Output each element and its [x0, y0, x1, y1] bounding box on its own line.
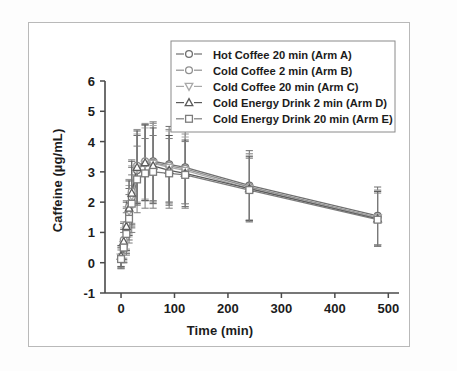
- y-tick-label: 2: [88, 195, 95, 210]
- data-point-marker: [128, 200, 135, 207]
- y-tick-label: 4: [88, 135, 96, 150]
- data-point-marker: [186, 51, 193, 58]
- y-tick-label: 0: [88, 256, 95, 271]
- legend-label: Cold Coffee 2 min (Arm B): [213, 65, 353, 77]
- caffeine-concentration-plot: -101234560100200300400500 Hot Coffee 20 …: [29, 23, 411, 348]
- errorbars-layer: [117, 122, 381, 269]
- x-tick-label: 500: [377, 301, 399, 316]
- legend-label: Cold Energy Drink 2 min (Arm D): [213, 97, 387, 109]
- legend-label: Hot Coffee 20 min (Arm A): [213, 49, 352, 61]
- x-tick-label: 100: [164, 301, 186, 316]
- data-point-marker: [142, 170, 149, 177]
- y-tick-label: 3: [88, 165, 95, 180]
- data-point-marker: [374, 216, 381, 223]
- data-point-marker: [166, 170, 173, 177]
- x-tick-label: 300: [271, 301, 293, 316]
- data-point-marker: [123, 231, 130, 238]
- figure-page: Caffeine (µg/mL) Time (min) -10123456010…: [0, 0, 457, 371]
- legend-layer: Hot Coffee 20 min (Arm A)Cold Coffee 2 m…: [171, 41, 395, 132]
- data-point-marker: [182, 171, 189, 178]
- x-tick-label: 400: [324, 301, 346, 316]
- data-point-marker: [120, 244, 127, 251]
- legend-label: Cold Coffee 20 min (Arm C): [213, 81, 359, 93]
- data-point-marker: [126, 215, 133, 222]
- figure-frame: Caffeine (µg/mL) Time (min) -10123456010…: [28, 22, 410, 347]
- legend-label: Cold Energy Drink 20 min (Arm E): [213, 113, 393, 125]
- data-point-marker: [150, 168, 157, 175]
- y-tick-label: 1: [88, 225, 95, 240]
- x-tick-label: 200: [217, 301, 239, 316]
- y-tick-label: 5: [88, 104, 95, 119]
- data-point-marker: [134, 176, 141, 183]
- data-point-marker: [118, 256, 125, 263]
- data-point-marker: [246, 187, 253, 194]
- data-point-marker: [186, 115, 193, 122]
- y-tick-label: 6: [88, 74, 95, 89]
- x-tick-label: 0: [117, 301, 124, 316]
- data-point-marker: [186, 67, 193, 74]
- y-tick-label: -1: [83, 286, 95, 301]
